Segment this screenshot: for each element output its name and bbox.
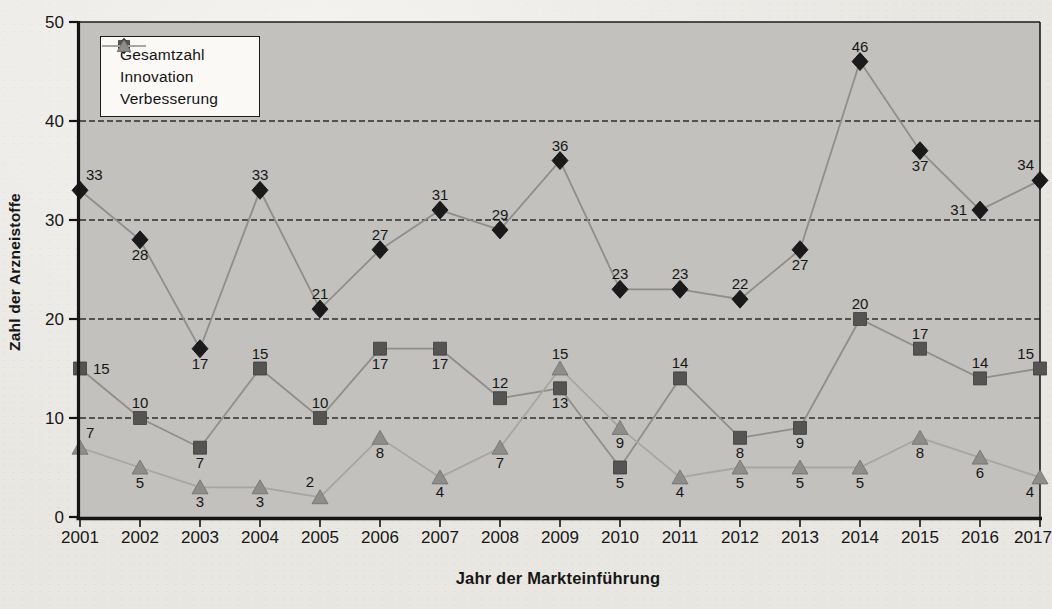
square-data-point-marker [614, 461, 627, 474]
data-point-label: 5 [136, 474, 144, 491]
data-point-label: 3 [196, 493, 204, 510]
data-point-label: 31 [950, 201, 967, 218]
square-data-point-marker [854, 313, 867, 326]
data-point-label: 4 [436, 483, 444, 500]
x-tick-label: 2016 [961, 528, 999, 547]
data-point-label: 12 [492, 374, 509, 391]
y-tick-label: 10 [45, 409, 64, 428]
y-tick-label: 0 [55, 508, 64, 527]
x-tick-label: 2006 [361, 528, 399, 547]
x-tick-label: 2005 [301, 528, 339, 547]
data-point-label: 17 [432, 355, 449, 372]
data-point-label: 7 [496, 454, 504, 471]
x-tick-label: 2013 [781, 528, 819, 547]
data-point-label: 27 [372, 226, 389, 243]
data-point-label: 6 [976, 464, 984, 481]
data-point-label: 3 [256, 493, 264, 510]
square-data-point-marker [494, 392, 507, 405]
data-point-label: 15 [252, 345, 269, 362]
x-tick-label: 2017 [1014, 528, 1052, 547]
data-point-label: 27 [792, 256, 809, 273]
data-point-label: 8 [916, 444, 924, 461]
data-point-label: 8 [736, 444, 744, 461]
x-tick-label: 2003 [181, 528, 219, 547]
data-point-label: 37 [912, 157, 929, 174]
y-tick-label: 40 [45, 112, 64, 131]
data-point-label: 29 [492, 206, 509, 223]
square-data-point-marker [554, 382, 567, 395]
x-tick-label: 2007 [421, 528, 459, 547]
data-point-label: 46 [852, 38, 869, 55]
x-tick-label: 2002 [121, 528, 159, 547]
data-point-label: 20 [852, 295, 869, 312]
square-data-point-marker [914, 342, 927, 355]
data-point-label: 17 [372, 355, 389, 372]
square-data-point-marker [674, 372, 687, 385]
data-point-label: 9 [796, 434, 804, 451]
data-point-label: 5 [616, 474, 624, 491]
data-point-label: 34 [1017, 156, 1034, 173]
square-data-point-marker [374, 342, 387, 355]
data-point-label: 15 [93, 360, 110, 377]
square-data-point-marker [254, 362, 267, 375]
data-point-label: 15 [552, 345, 569, 362]
y-tick-label: 20 [45, 310, 64, 329]
scanned-chart-page: 3328173321273129362323222746373134151071… [0, 0, 1052, 609]
x-tick-label: 2004 [241, 528, 279, 547]
x-tick-label: 2009 [541, 528, 579, 547]
square-data-point-marker [314, 412, 327, 425]
data-point-label: 22 [732, 275, 749, 292]
x-tick-label: 2011 [662, 528, 699, 547]
square-data-point-marker [434, 342, 447, 355]
data-point-label: 15 [1017, 345, 1034, 362]
data-point-label: 10 [132, 394, 149, 411]
square-data-point-marker [794, 421, 807, 434]
data-point-label: 36 [552, 137, 569, 154]
x-tick-label: 2010 [601, 528, 639, 547]
legend-label: Innovation [120, 68, 194, 86]
x-tick-label: 2008 [481, 528, 519, 547]
data-point-label: 9 [616, 434, 624, 451]
data-point-label: 28 [132, 246, 149, 263]
square-data-point-marker [134, 412, 147, 425]
square-data-point-marker [1034, 362, 1047, 375]
data-point-label: 23 [612, 265, 629, 282]
data-point-label: 17 [192, 355, 209, 372]
legend-label: Verbesserung [120, 90, 218, 108]
y-tick-label: 50 [45, 13, 64, 32]
chart-legend: Gesamtzahl Innovation Verbesserung [100, 36, 260, 117]
x-tick-label: 2001 [61, 528, 99, 547]
legend-item-innovation: Innovation [111, 66, 251, 88]
x-tick-label: 2012 [721, 528, 759, 547]
square-data-point-marker [734, 431, 747, 444]
data-point-label: 23 [672, 265, 689, 282]
data-point-label: 2 [306, 473, 314, 490]
y-axis-title: Zahl der Arzneistoffe [6, 193, 24, 351]
square-data-point-marker [194, 441, 207, 454]
data-point-label: 5 [736, 474, 744, 491]
x-axis-title: Jahr der Markteinführung [456, 569, 661, 588]
data-point-label: 33 [86, 166, 103, 183]
data-point-label: 5 [856, 474, 864, 491]
square-data-point-marker [974, 372, 987, 385]
data-point-label: 7 [86, 424, 94, 441]
data-point-label: 7 [196, 454, 204, 471]
y-tick-label: 30 [45, 211, 64, 230]
data-point-label: 4 [676, 483, 684, 500]
data-point-label: 8 [376, 444, 384, 461]
data-point-label: 14 [672, 354, 689, 371]
data-point-label: 21 [312, 285, 329, 302]
data-point-label: 5 [796, 474, 804, 491]
data-point-label: 17 [912, 325, 929, 342]
data-point-label: 13 [552, 394, 569, 411]
data-point-label: 31 [432, 186, 449, 203]
x-tick-label: 2014 [841, 528, 879, 547]
data-point-label: 33 [252, 166, 269, 183]
data-point-label: 14 [972, 354, 989, 371]
data-point-label: 10 [312, 394, 329, 411]
legend-item-verbesserung: Verbesserung [111, 88, 251, 110]
triangle-marker-icon [101, 37, 147, 55]
data-point-label: 4 [1026, 483, 1034, 500]
x-tick-label: 2015 [901, 528, 939, 547]
